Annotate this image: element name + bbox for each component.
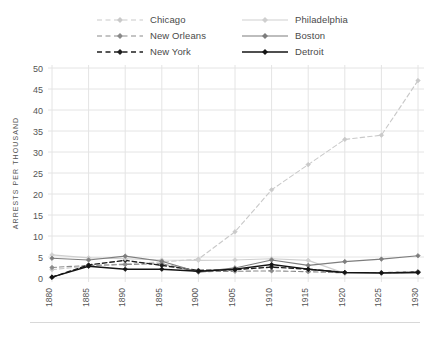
- legend-item-boston[interactable]: Boston: [241, 28, 391, 44]
- legend-item-chicago[interactable]: Chicago: [96, 12, 241, 28]
- chart-figure: ChicagoPhiladelphiaNew OrleansBostonNew …: [0, 0, 443, 338]
- y-tick-label: 25: [33, 169, 43, 179]
- plot-area: 05101520253035404550 1880188518901895190…: [0, 60, 443, 310]
- y-tick-label: 35: [33, 127, 43, 137]
- data-point-marker: [306, 258, 311, 263]
- legend-item-new-orleans[interactable]: New Orleans: [96, 28, 241, 44]
- x-tick-label: 1905: [227, 288, 237, 307]
- legend-label: Philadelphia: [295, 15, 348, 25]
- y-tick-label: 5: [38, 253, 43, 263]
- data-point-marker: [50, 275, 55, 280]
- y-tick-label: 20: [33, 190, 43, 200]
- x-tick-label: 1880: [44, 288, 54, 307]
- x-tick-label: 1900: [190, 288, 200, 307]
- y-tick-label: 30: [33, 148, 43, 158]
- legend-swatch-icon: [96, 31, 144, 41]
- legend-swatch-icon: [241, 31, 289, 41]
- legend-label: New York: [150, 47, 191, 57]
- legend-swatch-icon: [241, 15, 289, 25]
- y-axis-label: ARRESTS PER THOUSAND: [12, 117, 19, 230]
- y-tick-label: 0: [38, 274, 43, 284]
- x-tick-label: 1890: [117, 288, 127, 307]
- y-tick-label: 45: [33, 85, 43, 95]
- data-point-marker: [233, 258, 238, 263]
- gridlines: [48, 65, 424, 282]
- x-tick-label: 1930: [410, 288, 420, 307]
- legend-item-philadelphia[interactable]: Philadelphia: [241, 12, 391, 28]
- legend-swatch-icon: [96, 47, 144, 57]
- data-point-marker: [343, 259, 348, 264]
- legend-label: Boston: [295, 31, 325, 41]
- plot-svg: 05101520253035404550 1880188518901895190…: [0, 60, 443, 310]
- data-point-marker: [379, 271, 384, 276]
- legend-label: Chicago: [150, 15, 186, 25]
- y-tick-label: 40: [33, 106, 43, 116]
- data-point-marker: [160, 267, 165, 272]
- legend-swatch-icon: [241, 47, 289, 57]
- legend-label: Detroit: [295, 47, 324, 57]
- data-point-marker: [123, 267, 128, 272]
- x-tick-label: 1910: [264, 288, 274, 307]
- y-tick-label: 10: [33, 232, 43, 242]
- y-tick-label: 50: [33, 64, 43, 74]
- x-tick-label: 1925: [373, 288, 383, 307]
- chart-legend: ChicagoPhiladelphiaNew OrleansBostonNew …: [96, 12, 396, 60]
- legend-item-new-york[interactable]: New York: [96, 44, 241, 60]
- x-tick-label: 1885: [81, 288, 91, 307]
- x-tick-label: 1915: [300, 288, 310, 307]
- legend-item-detroit[interactable]: Detroit: [241, 44, 391, 60]
- y-tick-label: 15: [33, 211, 43, 221]
- legend-label: New Orleans: [150, 31, 206, 41]
- x-axis-ticks: 1880188518901895190019051910191519201925…: [44, 288, 420, 307]
- x-tick-label: 1895: [154, 288, 164, 307]
- y-axis-ticks: 05101520253035404550: [33, 64, 43, 284]
- footer-divider: [30, 322, 420, 323]
- legend-swatch-icon: [96, 15, 144, 25]
- x-tick-label: 1920: [337, 288, 347, 307]
